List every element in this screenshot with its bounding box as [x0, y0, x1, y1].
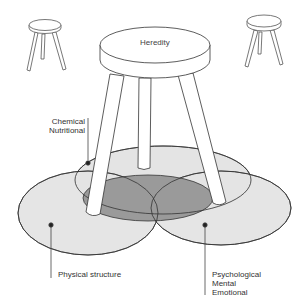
- chemical-label: Chemical Nutritional: [49, 117, 85, 135]
- label-line: Psychological: [212, 270, 261, 279]
- chemical-dot: [86, 161, 90, 165]
- big-stool-seat: [100, 27, 210, 78]
- small-stool-left-icon: [27, 20, 66, 72]
- label-line: Emotional: [212, 288, 261, 297]
- label-line: Physical structure: [58, 270, 121, 279]
- leg-back: [138, 78, 151, 170]
- physical-label: Physical structure: [58, 270, 121, 279]
- small-stool-right-icon: [245, 15, 283, 67]
- physical-dot: [49, 223, 53, 227]
- psychological-label: Psychological Mental Emotional: [212, 270, 261, 297]
- label-line: Mental: [212, 279, 261, 288]
- label-line: Chemical: [49, 117, 85, 126]
- psychological-dot: [203, 223, 207, 227]
- health-factor-ellipses: [18, 146, 291, 255]
- heredity-label: Heredity: [140, 38, 170, 47]
- label-line: Nutritional: [49, 126, 85, 135]
